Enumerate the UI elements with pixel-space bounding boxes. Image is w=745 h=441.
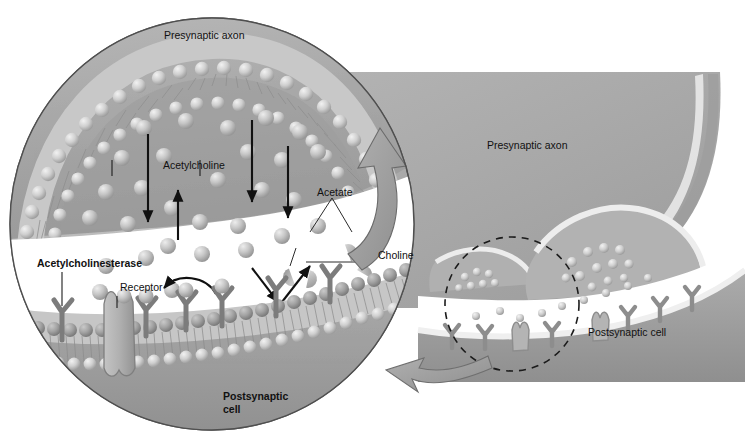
figure-canvas: Presynaptic axon Acetylcholine Acetate C… bbox=[0, 0, 745, 441]
overview-postsynaptic-cell-label: Postsynaptic cell bbox=[588, 326, 666, 338]
choline-label: Choline bbox=[378, 249, 414, 261]
magnified-postsynaptic-cell-label-line1: Postsynaptic bbox=[223, 390, 288, 402]
magnified-synapse-circle bbox=[0, 0, 430, 441]
postsynaptic-channel-protein bbox=[104, 291, 135, 376]
synapse-diagram-svg bbox=[0, 0, 745, 441]
acetylcholinesterase-label: Acetylcholinesterase bbox=[37, 257, 142, 269]
acetylcholine-label: Acetylcholine bbox=[163, 159, 225, 171]
magnified-postsynaptic-cell-label-line2: cell bbox=[223, 403, 241, 415]
overview-presynaptic-axon-label: Presynaptic axon bbox=[487, 139, 568, 151]
magnified-presynaptic-axon-label: Presynaptic axon bbox=[164, 29, 245, 41]
receptor-label: Receptor bbox=[120, 281, 163, 293]
acetate-label: Acetate bbox=[317, 186, 353, 198]
